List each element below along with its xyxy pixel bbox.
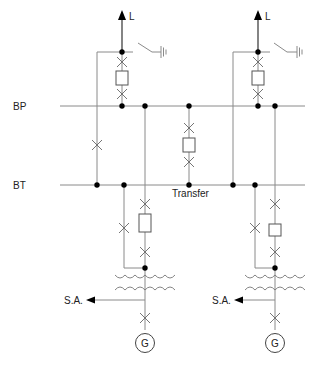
- right-line-feeder: [233, 10, 302, 185]
- line-arrow-icon: [118, 10, 126, 20]
- earth-switch-icon: [274, 43, 287, 52]
- transfer-bus-label: BT: [13, 180, 26, 191]
- aux-arrow-icon: [86, 297, 95, 304]
- circuit-breaker-icon: [116, 71, 128, 85]
- circuit-breaker-icon: [269, 224, 281, 236]
- line-label-right: L: [265, 11, 271, 22]
- line-arrow-icon: [254, 10, 262, 20]
- circuit-breaker-icon: [183, 138, 195, 152]
- left-generator-bay: [86, 103, 175, 352]
- line-label-left: L: [129, 11, 135, 22]
- circuit-breaker-icon: [139, 214, 151, 232]
- main-bus-label: BP: [13, 101, 27, 112]
- transfer-coupler: [183, 103, 195, 187]
- aux-arrow-icon: [234, 297, 243, 304]
- generator-label-left: G: [141, 338, 149, 349]
- transfer-label: Transfer: [172, 188, 210, 199]
- left-line-feeder: [92, 10, 166, 185]
- single-line-diagram: L L Transfer: [0, 0, 321, 368]
- aux-label-right: S.A.: [212, 295, 231, 306]
- right-generator-bay: [230, 103, 305, 352]
- earth-switch-icon: [138, 43, 152, 52]
- circuit-breaker-icon: [252, 71, 264, 85]
- aux-label-left: S.A.: [64, 295, 83, 306]
- generator-label-right: G: [271, 338, 279, 349]
